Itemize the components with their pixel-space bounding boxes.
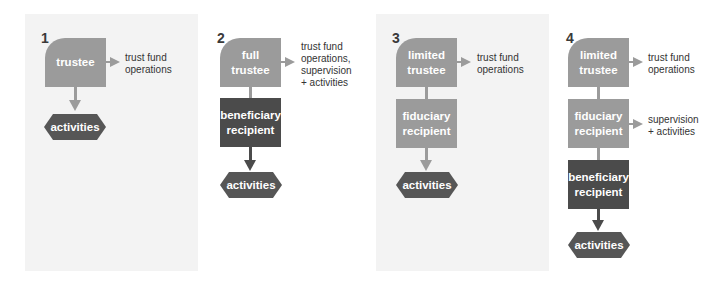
connector-line (249, 87, 252, 98)
output-label: trust fund operations (125, 52, 172, 76)
arrow-down-icon (244, 160, 256, 171)
arrow-down-icon (69, 100, 81, 111)
output-label: supervision + activities (648, 114, 699, 138)
trustee-box: trustee (45, 38, 106, 87)
fiduciary-recipient-box: fiduciary recipient (396, 99, 457, 148)
fiduciary-recipient-box: fiduciary recipient (568, 99, 629, 148)
limited-trustee-box: limited trustee (396, 38, 457, 87)
arrow-down-icon (592, 220, 604, 231)
limited-trustee-box: limited trustee (568, 38, 629, 87)
activities-hexagon: activities (44, 114, 106, 140)
panel-number: 1 (41, 30, 49, 46)
arrow-right-icon (633, 57, 643, 67)
activities-hexagon: activities (568, 232, 630, 258)
panel-number: 2 (217, 30, 225, 46)
output-label: trust fund operations (477, 52, 524, 76)
activities-hexagon: activities (396, 172, 458, 198)
panel-number: 3 (392, 30, 400, 46)
arrow-right-icon (633, 119, 643, 129)
connector-line (249, 147, 252, 161)
beneficiary-recipient-box: beneficiary recipient (220, 98, 281, 147)
arrow-right-icon (461, 57, 471, 67)
arrow-right-icon (285, 57, 295, 67)
arrow-down-icon (420, 160, 432, 171)
full-trustee-box: full trustee (220, 38, 281, 87)
activities-hexagon: activities (220, 172, 282, 198)
connector-line (74, 87, 77, 101)
connector-line (597, 148, 600, 160)
connector-line (597, 87, 600, 99)
connector-line (425, 87, 428, 99)
output-label: trust fund operations (648, 52, 695, 76)
arrow-right-icon (110, 57, 120, 67)
beneficiary-recipient-box: beneficiary recipient (568, 160, 629, 209)
output-label: trust fund operations, supervision + act… (301, 41, 352, 89)
